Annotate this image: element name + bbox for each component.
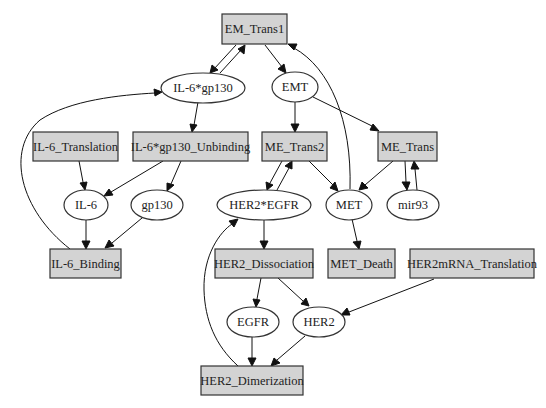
node-il6-binding[interactable]: IL-6_Binding — [50, 249, 121, 278]
edge-dissociation-to-her2 — [278, 278, 309, 306]
edge-emt-to-metrans2 — [291, 102, 299, 132]
node-label: IL-6 — [75, 198, 97, 212]
node-her2[interactable]: HER2 — [293, 307, 345, 337]
node-me-trans[interactable]: ME_Trans — [378, 132, 437, 161]
node-me-trans2[interactable]: ME_Trans2 — [262, 132, 327, 161]
node-label: MET — [336, 198, 363, 212]
edge-met-to-emtrans1 — [288, 44, 350, 189]
edge-her2mrna-to-her2 — [341, 279, 434, 315]
edge-emtrans1-to-emt — [265, 45, 286, 73]
node-emt[interactable]: EMT — [272, 72, 318, 102]
edge-unbinding-to-gp130 — [167, 161, 181, 191]
edge-emtrans1-to-il6gp130 — [210, 45, 236, 73]
edge-her2egfr-to-dissociation — [260, 219, 268, 249]
node-her2-dimerization[interactable]: HER2_Dimerization — [200, 366, 304, 395]
node-label: MET_Death — [330, 257, 393, 271]
node-em-trans1[interactable]: EM_Trans1 — [222, 14, 287, 44]
node-il6-translation[interactable]: IL-6_Translation — [33, 132, 119, 161]
edge-il6translation-to-il6 — [79, 161, 87, 190]
edge-il6binding-to-il6gp130 — [21, 89, 162, 249]
node-label: IL-6_Translation — [33, 140, 119, 154]
edge-egfr-to-dimerization — [248, 337, 256, 366]
node-label: EMT — [282, 80, 309, 94]
node-label: EM_Trans1 — [225, 22, 284, 36]
node-il6[interactable]: IL-6 — [64, 190, 108, 220]
node-gp130[interactable]: gp130 — [131, 190, 183, 220]
edge-mir93-to-metrans — [411, 161, 419, 190]
node-her2mrna-translation[interactable]: HER2mRNA_Translation — [407, 249, 538, 278]
node-label: mir93 — [398, 198, 428, 212]
node-label: HER2_Dimerization — [200, 374, 304, 388]
node-label: HER2_Dissociation — [214, 257, 315, 271]
node-label: HER2mRNA_Translation — [407, 257, 538, 271]
node-label: EGFR — [237, 315, 270, 329]
node-met-death[interactable]: MET_Death — [328, 249, 395, 278]
node-label: gp130 — [141, 198, 172, 212]
edge-metrans2-to-met — [309, 161, 338, 191]
edge-il6gp130-to-unbinding — [190, 102, 198, 132]
node-egfr[interactable]: EGFR — [227, 307, 279, 337]
edge-gp130-to-il6binding — [105, 218, 142, 248]
edge-met-to-metdeath — [352, 219, 361, 249]
node-mir93[interactable]: mir93 — [387, 190, 439, 220]
node-her2-dissociation[interactable]: HER2_Dissociation — [214, 249, 315, 278]
edge-metrans-to-met — [359, 161, 393, 190]
node-il6-gp130[interactable]: IL-6*gp130 — [161, 73, 245, 103]
node-her2-egfr[interactable]: HER2*EGFR — [217, 190, 311, 220]
edge-her2-to-dimerization — [271, 336, 305, 366]
edge-emt-to-metrans — [313, 97, 379, 131]
edge-il6-to-il6binding — [82, 220, 90, 249]
edge-dissociation-to-egfr — [253, 278, 261, 307]
node-label: ME_Trans2 — [265, 140, 324, 154]
node-label: IL-6*gp130_Unbinding — [131, 140, 251, 154]
edge-metrans-to-mir93 — [402, 161, 410, 190]
node-label: IL-6*gp130 — [173, 81, 233, 95]
pathway-graph: EM_Trans1 IL-6*gp130 EMT IL-6_Translatio… — [0, 0, 546, 408]
node-label: HER2 — [303, 315, 334, 329]
node-label: ME_Trans — [381, 140, 434, 154]
node-label: HER2*EGFR — [229, 198, 299, 212]
node-met[interactable]: MET — [326, 190, 372, 220]
node-label: IL-6_Binding — [51, 257, 120, 271]
edge-dimerization-to-her2egfr — [204, 219, 238, 366]
node-il6-gp130-unbinding[interactable]: IL-6*gp130_Unbinding — [131, 132, 251, 161]
